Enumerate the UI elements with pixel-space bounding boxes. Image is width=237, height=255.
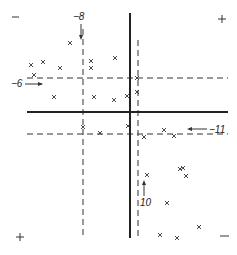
point-marker-icon — [197, 225, 201, 229]
point-marker-icon — [112, 98, 116, 102]
point-marker-icon — [175, 236, 179, 240]
point-marker-icon — [52, 95, 56, 99]
point-marker-icon — [92, 95, 96, 99]
sign-plus-bottom-left — [16, 233, 24, 241]
arrow-left-head-icon — [187, 127, 192, 131]
label-minus-8: −8 — [73, 11, 85, 22]
sign-plus-top-right — [218, 15, 226, 23]
threshold-labels: −6 −8 −11 10 — [11, 11, 225, 208]
point-marker-icon — [68, 41, 72, 45]
point-marker-icon — [29, 63, 33, 67]
arrow-right-head-icon — [38, 82, 43, 86]
point-marker-icon — [184, 174, 188, 178]
point-marker-icon — [145, 173, 149, 177]
point-marker-icon — [158, 233, 162, 237]
point-marker-icon — [113, 56, 117, 60]
label-10: 10 — [140, 197, 152, 208]
point-marker-icon — [58, 66, 62, 70]
point-marker-icon — [142, 135, 146, 139]
point-marker-icon — [89, 66, 93, 70]
arrow-down-head-icon — [79, 35, 83, 40]
point-marker-icon — [32, 73, 36, 77]
point-marker-icon — [162, 128, 166, 132]
point-marker-icon — [81, 125, 85, 129]
scatter-points — [29, 41, 201, 240]
arrow-up-head-icon — [142, 180, 146, 185]
point-marker-icon — [125, 94, 129, 98]
label-minus-6: −6 — [11, 78, 23, 89]
quadrant-signs — [12, 15, 229, 241]
point-marker-icon — [165, 201, 169, 205]
point-marker-icon — [172, 134, 176, 138]
label-minus-11: −11 — [209, 124, 225, 135]
point-marker-icon — [41, 60, 45, 64]
threshold-lines — [27, 29, 228, 237]
point-marker-icon — [89, 59, 93, 63]
scatter-diagram: −6 −8 −11 10 — [0, 0, 237, 255]
